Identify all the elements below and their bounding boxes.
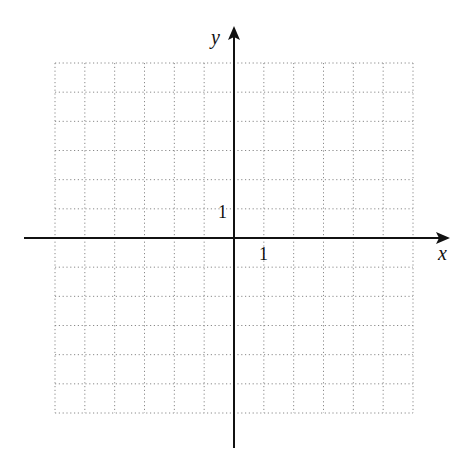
y-tick-label-1: 1: [218, 202, 227, 222]
coordinate-plane: y x 1 1: [0, 0, 468, 454]
y-axis-label: y: [209, 26, 220, 49]
x-axis-label: x: [437, 242, 447, 264]
x-tick-label-1: 1: [259, 244, 268, 264]
